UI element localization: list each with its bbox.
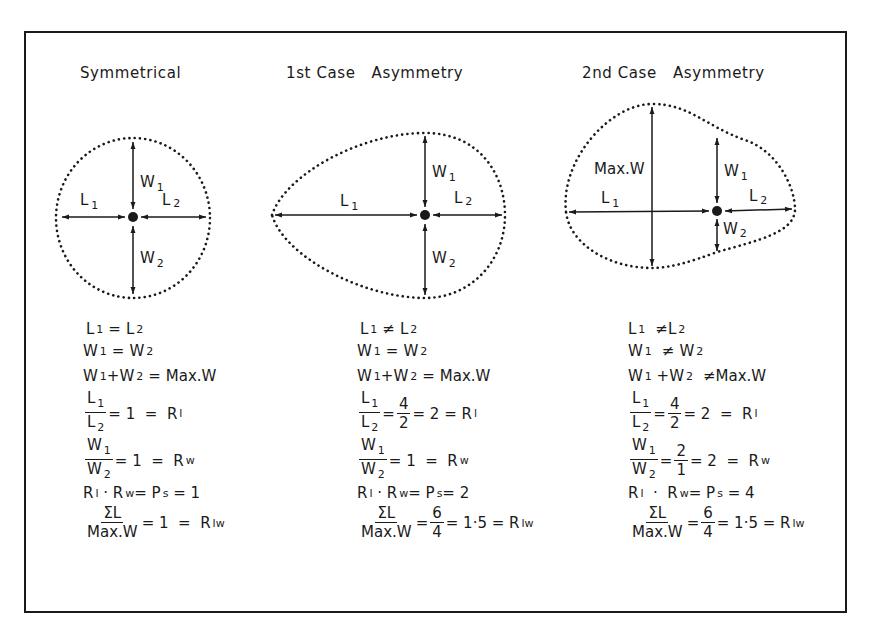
label-w1: W1 bbox=[724, 162, 748, 183]
formula-l1-l2: L1≠L2 bbox=[360, 320, 417, 338]
formula-l1-l2: L1=L2 bbox=[86, 320, 143, 338]
formula-w-sum: W1+W2=Max.W bbox=[83, 367, 216, 385]
formula-w-sum: W1 +W2≠Max.W bbox=[628, 367, 766, 385]
formula-w1-w2: W1≠W2 bbox=[628, 342, 703, 360]
formula-rlw: ΣLMax.W = 64 = 1·5 = Rlw bbox=[357, 505, 534, 541]
formula-rw: W1W2 = 21 = 2 = Rw bbox=[628, 437, 770, 484]
asym2-outline bbox=[566, 104, 795, 268]
formula-rl: L1L2 = 42 = 2 = Rl bbox=[628, 390, 758, 437]
formula-ps: Rl · Rw= Ps = 4 bbox=[628, 484, 755, 502]
label-l2: L2 bbox=[162, 191, 180, 210]
formula-rl: L1L2 = 1 = Rl bbox=[83, 390, 182, 437]
label-w1: W1 bbox=[140, 173, 164, 194]
label-l2: L2 bbox=[749, 187, 767, 207]
formula-w1-w2: W1=W2 bbox=[357, 342, 427, 360]
label-l1: L1 bbox=[601, 189, 619, 210]
formula-rw: W1W2 = 1 = Rw bbox=[83, 437, 195, 484]
label-w2: W2 bbox=[432, 249, 456, 270]
label-w2: W2 bbox=[723, 220, 747, 240]
formula-rw: W1W2 = 1 = Rw bbox=[357, 437, 469, 484]
center-dot-symmetrical bbox=[128, 212, 138, 222]
formula-w1-w2: W1=W2 bbox=[83, 342, 153, 360]
formula-ps: Rl · Rw= Ps = 1 bbox=[83, 484, 200, 502]
label-w1: W1 bbox=[432, 163, 456, 184]
formula-l1-l2: L1≠L2 bbox=[628, 320, 685, 338]
formula-rl: L1L2 = 42 = 2 = Rl bbox=[357, 390, 477, 437]
label-w2: W2 bbox=[140, 249, 164, 270]
center-dot-asym2 bbox=[712, 206, 722, 216]
formula-rlw: ΣLMax.W = 1 = Rlw bbox=[83, 505, 225, 541]
formula-ps: Rl · Rw= Ps= 2 bbox=[357, 484, 469, 502]
label-l1: L1 bbox=[340, 192, 358, 213]
label-l1: L1 bbox=[80, 191, 98, 212]
formula-w-sum: W1+W2=Max.W bbox=[357, 367, 490, 385]
label-max-w: Max.W bbox=[594, 160, 645, 178]
label-l2: L2 bbox=[454, 189, 472, 208]
formula-rlw: ΣLMax.W = 64 = 1·5 = Rlw bbox=[628, 505, 805, 541]
center-dot-asym1 bbox=[420, 210, 430, 220]
